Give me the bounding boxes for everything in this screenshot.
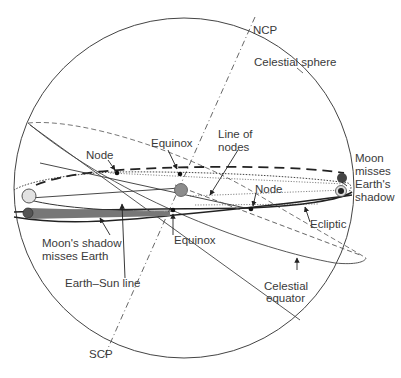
moon-right [337,173,347,183]
label-moon-shadow-2: misses Earth [42,250,108,262]
label-earth-sun-line: Earth–Sun line [65,277,140,289]
arrow-line-of-nodes [210,150,238,195]
label-moon-misses-1: Moon [355,152,384,164]
moon-orbit-dashed [36,167,344,185]
label-ncp: NCP [253,24,278,36]
earth-sun-line [30,188,180,198]
label-celestial-sphere: Celestial sphere [254,56,336,68]
equinox-top-dot [178,172,183,177]
label-moon-misses-4: shadow [355,191,395,203]
label-scp: SCP [89,348,113,360]
leader-celestial-sphere [297,68,303,73]
label-line-of-nodes-2: nodes [218,141,250,153]
label-equinox-bottom: Equinox [174,234,216,246]
earth-shadow-core [338,188,344,194]
node-right-dot [249,207,254,212]
label-moon-misses-3: Earth's [355,178,391,190]
equator-diagonal [30,125,300,320]
label-moon-misses-2: misses [355,165,391,177]
label-moon-shadow-1: Moon's shadow [42,237,122,249]
earth [175,184,188,197]
label-celestial-equator-1: Celestial [264,280,308,292]
line-of-nodes [40,163,250,209]
sun [22,189,36,203]
label-equinox-top: Equinox [151,137,193,149]
label-line-of-nodes-1: Line of [218,128,253,140]
label-ecliptic: Ecliptic [310,218,347,230]
celestial-sphere-diagram: NCP SCP Celestial sphere Equinox Node Li… [0,0,401,378]
label-celestial-equator-2: equator [266,292,305,304]
moon-left [23,208,33,218]
label-node-left: Node [86,149,114,161]
arrow-node-left [108,160,115,170]
equinox-bottom-dot [171,208,176,213]
node-left-dot [115,171,120,176]
arrow-equinox-top [168,150,177,169]
label-node-right: Node [255,183,283,195]
